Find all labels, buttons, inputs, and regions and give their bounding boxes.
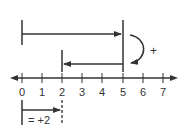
left-arrowhead-icon xyxy=(10,75,18,81)
curved-addition-arrow: + xyxy=(130,35,157,63)
tick-labels: 0 1 2 3 4 5 6 7 xyxy=(19,86,166,98)
tick-label-1: 1 xyxy=(39,86,45,98)
second-jump-arrow xyxy=(62,50,123,72)
number-line-diagram: + 0 1 2 3 4 5 6 7 xyxy=(0,0,187,134)
curved-arrow-icon xyxy=(130,35,144,63)
tick-label-4: 4 xyxy=(99,86,105,98)
plus-sign: + xyxy=(150,44,157,58)
result-arrow: = +2 xyxy=(22,100,62,126)
right-arrowhead-icon xyxy=(170,75,178,81)
tick-label-6: 6 xyxy=(140,86,146,98)
tick-label-5: 5 xyxy=(120,86,126,98)
tick-label-7: 7 xyxy=(160,86,166,98)
tick-label-0: 0 xyxy=(19,86,25,98)
tick-label-2: 2 xyxy=(59,86,65,98)
tick-label-3: 3 xyxy=(79,86,85,98)
number-line: 0 1 2 3 4 5 6 7 xyxy=(10,73,178,98)
result-label: = +2 xyxy=(28,114,50,126)
